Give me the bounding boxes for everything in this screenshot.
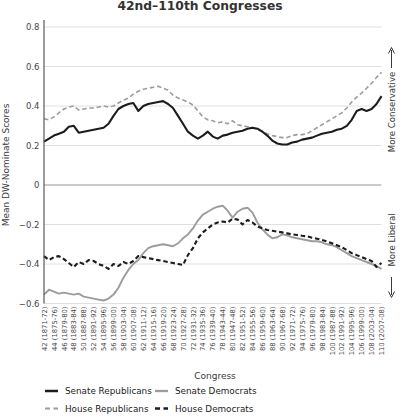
x-tick-label: 80 (1947-48) — [229, 306, 237, 351]
dw-nominate-line-chart: 42nd–110th Congresses 0.80.60.40.20−0.2−… — [0, 0, 404, 419]
down-arrow-icon — [389, 277, 395, 298]
y-tick-label: 0.4 — [26, 101, 40, 111]
y-tick-label: 0.6 — [26, 62, 40, 72]
x-tick-label: 46 (1879-80) — [61, 306, 69, 351]
x-tick-label: 62 (1911-12) — [140, 306, 148, 351]
legend: Senate RepublicansSenate DemocratsHouse … — [45, 386, 257, 414]
x-tick-label: 52 (1891-92) — [90, 306, 98, 351]
more-conservative-label: More Conservative — [387, 72, 397, 153]
y-tick-label: 0 — [34, 180, 39, 190]
x-tick-label: 96 (1979-80) — [309, 306, 317, 351]
y-axis-title: Mean DW-Nominate Scores — [1, 103, 11, 226]
x-tick-label: 72 (1931-32) — [190, 306, 198, 351]
series-line-senate-democrats — [44, 206, 382, 301]
x-tick-label: 100 (1987-88) — [329, 306, 337, 355]
x-tick-label: 66 (1919-20) — [160, 306, 168, 351]
x-tick-label: 110 (2007-08) — [378, 306, 386, 355]
x-tick-label: 92 (1971-72) — [289, 306, 297, 351]
x-tick-label: 58 (1903-04) — [120, 306, 128, 351]
dw-nominate-figure: 42nd–110th Congresses 0.80.60.40.20−0.2−… — [0, 0, 404, 419]
x-tick-label: 76 (1939-40) — [209, 306, 217, 351]
x-tick-label: 78 (1943-44) — [219, 306, 227, 351]
x-tick-label: 94 (1975-76) — [299, 306, 307, 351]
legend-item-house-democrats: House Democrats — [155, 404, 254, 414]
chart-title: 42nd–110th Congresses — [117, 0, 282, 13]
x-tick-label: 68 (1923-24) — [170, 306, 178, 351]
x-tick-label: 82 (1951-52) — [239, 306, 247, 351]
up-arrow-icon — [389, 48, 395, 69]
series-line-house-republicans — [44, 72, 382, 137]
x-tick-label: 64 (1915-16) — [150, 306, 158, 351]
y-tick-label: −0.6 — [19, 299, 40, 309]
y-tick-label: 0.8 — [26, 22, 40, 32]
legend-label: House Republicans — [65, 404, 149, 414]
x-tick-label: 102 (1991-92) — [338, 306, 346, 355]
x-tick-label: 104 (1995-96) — [348, 306, 356, 355]
legend-item-house-republicans: House Republicans — [45, 404, 149, 414]
x-axis-title: Congress — [194, 371, 236, 381]
legend-item-senate-democrats: Senate Democrats — [155, 386, 257, 396]
legend-label: House Democrats — [175, 404, 254, 414]
x-tick-label: 54 (1895-96) — [100, 306, 108, 351]
legend-label: Senate Democrats — [175, 386, 257, 396]
y-tick-label: 0.2 — [26, 141, 40, 151]
x-tick-label: 98 (1983-84) — [319, 306, 327, 351]
x-tick-label: 106 (1999-00) — [358, 306, 366, 355]
y-tick-labels: 0.80.60.40.20−0.2−0.4−0.6 — [19, 22, 40, 309]
series-lines — [44, 72, 382, 300]
x-tick-label: 74 (1935-36) — [199, 306, 207, 351]
x-tick-label: 90 (1967-68) — [279, 306, 287, 351]
y-tick-label: −0.4 — [19, 259, 40, 269]
x-tick-labels: 42 (1871-72)44 (1875-76)46 (1879-80)48 (… — [41, 306, 387, 355]
x-tick-label: 42 (1871-72) — [41, 306, 49, 351]
x-tick-label: 60 (1907-08) — [130, 306, 138, 351]
legend-label: Senate Republicans — [65, 386, 152, 396]
x-tick-label: 108 (2003-04) — [368, 306, 376, 355]
x-tick-label: 70 (1927-28) — [180, 306, 188, 351]
series-line-house-democrats — [44, 219, 382, 269]
x-tick-label: 48 (1883-84) — [70, 306, 78, 351]
more-liberal-label: More Liberal — [387, 213, 397, 266]
y-tick-label: −0.2 — [19, 220, 40, 230]
legend-item-senate-republicans: Senate Republicans — [45, 386, 152, 396]
x-tick-label: 84 (1955-56) — [249, 306, 257, 351]
x-tick-label: 86 (1959-60) — [259, 306, 267, 351]
x-tick-label: 44 (1875-76) — [51, 306, 59, 351]
x-tick-label: 88 (1963-64) — [269, 306, 277, 351]
x-tick-label: 50 (1887-88) — [80, 306, 88, 351]
x-tick-label: 56 (1899-00) — [110, 306, 118, 351]
